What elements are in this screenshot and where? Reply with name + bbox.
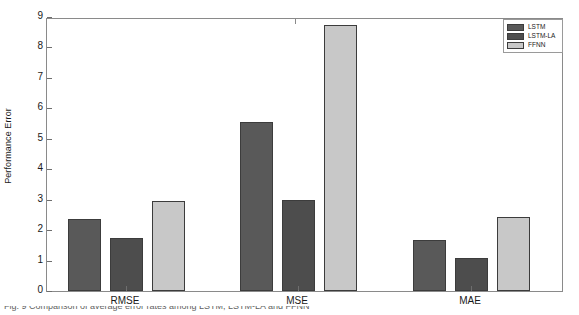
axis-tick-stub <box>295 19 296 24</box>
legend-item: FFNN <box>507 41 559 49</box>
y-axis-tick-mark <box>47 200 52 201</box>
figure-caption-text: Fig. 9 Comparison of average error rates… <box>4 306 310 311</box>
x-axis-tick-label: MSE <box>286 295 308 306</box>
y-axis-tick-label: 8 <box>37 40 43 51</box>
legend-swatch <box>507 24 524 31</box>
y-axis-tick-label: 0 <box>37 284 43 295</box>
plot-area: 0123456789 LSTMLSTM-LAFFNN <box>46 18 563 292</box>
y-axis-tick-mark <box>47 78 52 79</box>
y-axis-tick-label: 5 <box>37 132 43 143</box>
bar <box>68 219 101 291</box>
bar <box>110 238 143 291</box>
legend-item: LSTM-LA <box>507 32 559 40</box>
y-axis-tick-label: 4 <box>37 162 43 173</box>
x-axis-tick-mark <box>126 286 127 291</box>
x-axis-tick-label: MAE <box>459 295 481 306</box>
chart-legend: LSTMLSTM-LAFFNN <box>503 19 563 53</box>
bar <box>152 201 185 291</box>
y-axis-tick-label: 1 <box>37 254 43 265</box>
bar <box>497 217 530 291</box>
bar <box>240 122 273 291</box>
legend-label: LSTM <box>528 24 545 31</box>
bar-chart-figure: Performance Error 0123456789 LSTMLSTM-LA… <box>0 0 579 315</box>
y-axis-label-text: Performance Error <box>3 108 13 184</box>
x-axis-tick-mark <box>471 286 472 291</box>
x-axis-tick-mark <box>298 286 299 291</box>
legend-item: LSTM <box>507 23 559 31</box>
bar <box>324 25 357 291</box>
y-axis-tick-label: 3 <box>37 193 43 204</box>
bar <box>413 240 446 291</box>
figure-caption-clipped: Fig. 9 Comparison of average error rates… <box>0 306 579 315</box>
y-axis-tick-mark <box>47 47 52 48</box>
x-axis-tick-label: RMSE <box>111 295 140 306</box>
y-axis-tick-label: 6 <box>37 101 43 112</box>
y-axis-tick-mark <box>47 139 52 140</box>
y-axis-tick-mark <box>47 230 52 231</box>
y-axis-tick-mark <box>47 108 52 109</box>
bar <box>282 200 315 291</box>
y-axis-tick-mark <box>47 291 52 292</box>
y-axis-label: Performance Error <box>0 0 16 292</box>
legend-swatch <box>507 33 524 40</box>
y-axis-tick-label: 7 <box>37 71 43 82</box>
legend-swatch <box>507 42 524 49</box>
y-axis-tick-mark <box>47 17 52 18</box>
y-axis-tick-label: 9 <box>37 10 43 21</box>
y-axis-tick-mark <box>47 169 52 170</box>
legend-label: FFNN <box>528 42 545 49</box>
y-axis-tick-label: 2 <box>37 223 43 234</box>
y-axis-tick-mark <box>47 261 52 262</box>
legend-label: LSTM-LA <box>528 33 555 40</box>
